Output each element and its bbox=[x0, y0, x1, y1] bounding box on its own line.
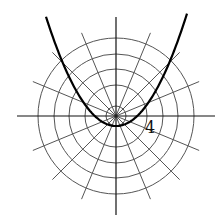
polar-grid-canvas: 4 bbox=[0, 0, 220, 220]
axes bbox=[17, 17, 215, 215]
label-4: 4 bbox=[145, 118, 155, 137]
polar-grid-diagram: 4 bbox=[0, 0, 220, 220]
